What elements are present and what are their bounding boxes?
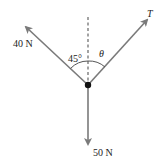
label-angle-45: 45°	[68, 53, 82, 64]
angle-arc-theta	[88, 61, 105, 67]
label-angle-theta: θ	[99, 48, 104, 59]
body-point	[85, 82, 91, 88]
label-40n: 40 N	[13, 38, 33, 49]
label-t: T	[147, 8, 154, 19]
label-50n: 50 N	[93, 147, 113, 158]
force-diagram: 40 N T 50 N 45° θ	[0, 0, 161, 164]
force-t-arrow	[88, 20, 147, 85]
